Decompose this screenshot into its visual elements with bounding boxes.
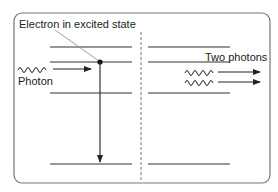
stimulated-emission-diagram: Electron in excited state Photon Two pho… [0,0,278,192]
incoming-photon-wave-icon [18,68,46,73]
electron-label: Electron in excited state [19,19,136,30]
right-energy-levels [148,47,230,164]
left-energy-levels [50,47,132,164]
outgoing-photon-wave-icon [185,71,213,76]
two-photons-label: Two photons [205,52,267,63]
outgoing-photon-wave-icon [185,81,213,86]
diagram-frame [14,13,270,183]
electron-leader-line [55,30,99,61]
photon-label: Photon [18,76,53,87]
